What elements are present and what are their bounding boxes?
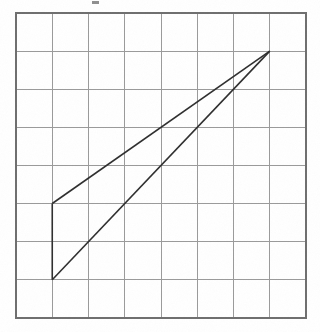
scan-mark-artifact: [92, 1, 99, 4]
grid-triangle-figure: [0, 0, 320, 332]
figure-canvas: [0, 0, 320, 332]
